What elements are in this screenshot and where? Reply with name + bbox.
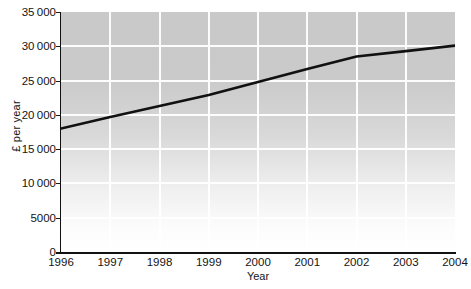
y-tick-label: 20 000 — [0, 109, 56, 121]
plot-area — [61, 12, 455, 252]
y-tick-label: 5000 — [0, 212, 56, 224]
y-tick-label: 15 000 — [0, 143, 56, 155]
x-axis-title: Year — [61, 270, 455, 282]
x-axis-tick-labels: 199619971998199920002001200220032004 — [61, 255, 455, 271]
y-axis-line — [60, 12, 61, 252]
x-tick-label: 2004 — [425, 255, 471, 269]
caption-sliver — [4, 283, 304, 289]
y-tick-label: 10 000 — [0, 177, 56, 189]
y-tick-label: 35 000 — [0, 6, 56, 18]
y-tick-label: 25 000 — [0, 75, 56, 87]
y-axis-tick-labels: 0500010 00015 00020 00025 00030 00035 00… — [0, 0, 56, 289]
data-series-line — [61, 12, 455, 252]
line-chart-figure: £ per year 0500010 00015 00020 00025 000… — [0, 0, 471, 289]
x-axis-line — [56, 252, 456, 254]
y-tick-label: 30 000 — [0, 40, 56, 52]
